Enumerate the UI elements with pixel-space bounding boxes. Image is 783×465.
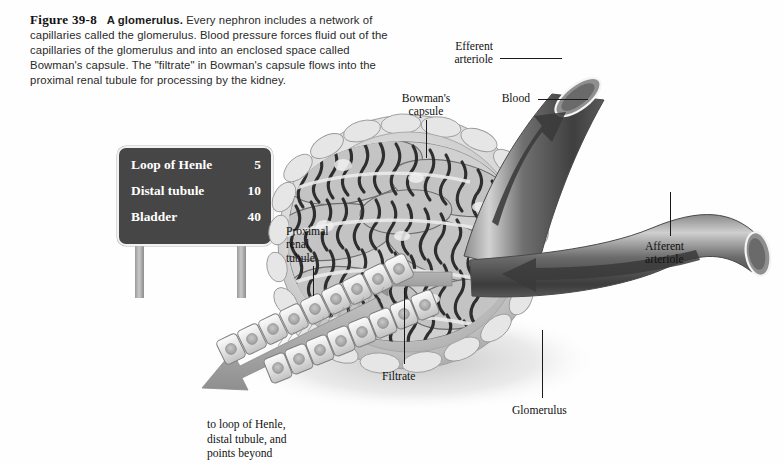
leader-glomerulus xyxy=(542,330,543,398)
label-downstream-path: to loop of Henle, distal tubule, and poi… xyxy=(207,418,347,462)
leader-bowmans-capsule xyxy=(426,120,427,158)
label-filtrate: Filtrate xyxy=(382,370,442,383)
label-afferent-arteriole: Afferent arteriole xyxy=(645,240,725,267)
leader-proximal-renal-tubule xyxy=(313,266,314,296)
label-blood: Blood xyxy=(470,92,530,105)
leader-efferent-arteriole xyxy=(500,58,562,59)
leader-filtrate xyxy=(404,288,405,364)
leader-afferent-arteriole xyxy=(670,192,671,236)
leader-blood xyxy=(538,99,588,100)
figure-title: A glomerulus. xyxy=(107,14,183,26)
figure-root: Figure 39-8 A glomerulus. Every nephron … xyxy=(0,0,783,465)
sign-row-label: Bladder xyxy=(131,209,177,225)
sign-post-left xyxy=(135,246,144,298)
label-glomerulus: Glomerulus xyxy=(512,404,602,417)
label-proximal-renal-tubule: Proximal renal tubule xyxy=(286,225,356,265)
label-bowmans-capsule: Bowman's capsule xyxy=(380,92,472,119)
figure-number: Figure 39-8 xyxy=(30,12,97,27)
label-efferent-arteriole: Efferent arteriole xyxy=(398,40,493,67)
